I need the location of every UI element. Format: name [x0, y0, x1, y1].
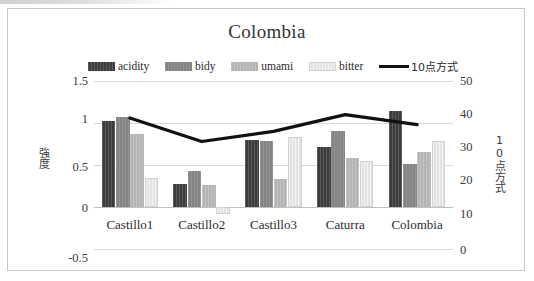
y-tick-0-5: 0.5: [54, 160, 88, 175]
scanned-page-artifact: [0, 0, 534, 4]
y-axis-left-ticks: 1.5 1 0.5 0 -0.5: [52, 9, 88, 281]
chart-legend: acidity bidy umami bitter 10点方式: [88, 57, 458, 75]
legend-item-bitter[interactable]: bitter: [309, 60, 363, 72]
y-tick-1: 1: [54, 112, 88, 127]
legend-item-acidity[interactable]: acidity: [88, 60, 149, 72]
y-axis-right-ticks: 50 40 30 20 10 0: [460, 9, 494, 281]
x-label-castillo1: Castillo1: [94, 217, 166, 233]
y2-tick-10: 10: [460, 207, 494, 222]
legend-label-bidy: bidy: [195, 60, 215, 72]
y2-tick-0: 0: [460, 243, 494, 258]
legend-item-umami[interactable]: umami: [231, 60, 293, 72]
x-axis-labels: Castillo1 Castillo2 Castillo3 Caturra Co…: [94, 217, 453, 233]
y-tick-neg-0-5: -0.5: [54, 251, 88, 266]
legend-label-umami: umami: [261, 60, 293, 72]
legend-label-acidity: acidity: [118, 60, 149, 72]
y-axis-right-title: 10点方式: [494, 134, 505, 193]
x-label-castillo3: Castillo3: [238, 217, 310, 233]
gridline-neg-0-5: [94, 249, 453, 250]
x-label-colombia: Colombia: [381, 217, 453, 233]
x-label-castillo2: Castillo2: [166, 217, 238, 233]
bitter-swatch-icon: [309, 62, 336, 71]
y-tick-1-5: 1.5: [54, 74, 88, 89]
y2-tick-50: 50: [460, 74, 494, 89]
chart-container: Colombia acidity bidy umami bitter 10点方式…: [7, 8, 525, 271]
legend-label-bitter: bitter: [339, 60, 363, 72]
bidy-swatch-icon: [165, 62, 192, 71]
y2-tick-20: 20: [460, 173, 494, 188]
line-swatch-icon: [379, 65, 409, 68]
legend-label-ten-point-scale: 10点方式: [411, 58, 458, 74]
legend-item-ten-point-scale[interactable]: 10点方式: [379, 58, 458, 74]
y2-tick-30: 30: [460, 140, 494, 155]
legend-item-bidy[interactable]: bidy: [165, 60, 215, 72]
y2-tick-40: 40: [460, 107, 494, 122]
y-axis-left-title: 強度: [38, 147, 49, 169]
y-tick-0: 0: [54, 201, 88, 216]
umami-swatch-icon: [231, 62, 258, 71]
acidity-swatch-icon: [88, 62, 115, 71]
x-label-caturra: Caturra: [309, 217, 381, 233]
